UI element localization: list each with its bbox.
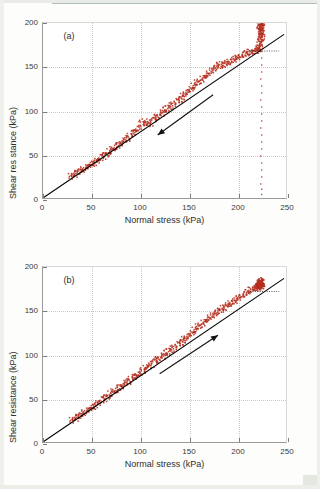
ytick-label-150: 150 bbox=[10, 306, 38, 315]
xtick-0 bbox=[43, 194, 44, 198]
ytick-100 bbox=[43, 356, 47, 357]
xtick-100 bbox=[141, 194, 142, 198]
series-shear-peak-cluster bbox=[253, 277, 265, 292]
xtick-label-250: 250 bbox=[280, 203, 293, 212]
xtick-200 bbox=[239, 194, 240, 198]
xtick-label-50: 50 bbox=[87, 447, 96, 456]
xtick-250 bbox=[288, 194, 289, 198]
xtick-250 bbox=[288, 438, 289, 442]
xtick-0 bbox=[43, 438, 44, 442]
xtick-label-150: 150 bbox=[182, 447, 195, 456]
xtick-label-0: 0 bbox=[40, 203, 44, 212]
plot-inner-b bbox=[43, 267, 286, 442]
panel-tag-b: (b) bbox=[64, 275, 75, 285]
direction-arrow-head-b bbox=[211, 335, 218, 341]
plot-canvas-b bbox=[43, 267, 286, 442]
xtick-label-250: 250 bbox=[280, 447, 293, 456]
direction-arrow-shaft-b bbox=[160, 335, 218, 374]
y-axis-title-b: Shear resistance (kPa) bbox=[8, 351, 18, 443]
ytick-150 bbox=[43, 67, 47, 68]
ytick-150 bbox=[43, 311, 47, 312]
ytick-200 bbox=[43, 267, 47, 268]
direction-arrow-head-a bbox=[158, 129, 165, 135]
series-shear-unload-trace bbox=[68, 44, 263, 179]
chart-panel-b: 37°050100150200250050100150200Normal str… bbox=[0, 250, 320, 488]
fit-line-b bbox=[43, 278, 284, 442]
xtick-label-150: 150 bbox=[182, 203, 195, 212]
xtick-label-100: 100 bbox=[133, 447, 146, 456]
xtick-50 bbox=[92, 194, 93, 198]
plot-area-a bbox=[42, 22, 287, 199]
plot-canvas-a bbox=[43, 23, 286, 198]
series-shear-vertical-dropoff bbox=[260, 57, 262, 195]
xtick-label-50: 50 bbox=[87, 203, 96, 212]
ytick-label-150: 150 bbox=[10, 62, 38, 71]
ytick-label-200: 200 bbox=[10, 18, 38, 27]
ytick-200 bbox=[43, 23, 47, 24]
xtick-100 bbox=[141, 438, 142, 442]
ytick-label-200: 200 bbox=[10, 262, 38, 271]
x-axis-title-b: Normal stress (kPa) bbox=[42, 459, 287, 469]
ytick-0 bbox=[43, 444, 47, 445]
series-shear-load-trace bbox=[69, 281, 263, 423]
xtick-label-100: 100 bbox=[133, 203, 146, 212]
plot-area-b bbox=[42, 266, 287, 443]
xtick-150 bbox=[190, 194, 191, 198]
y-axis-title-a: Shear res stance (kPa) bbox=[8, 107, 18, 199]
scan-edge-top-rule bbox=[52, 3, 320, 4]
xtick-50 bbox=[92, 438, 93, 442]
ytick-0 bbox=[43, 200, 47, 201]
xtick-label-200: 200 bbox=[231, 447, 244, 456]
x-axis-title-a: Normal stress (kPa) bbox=[42, 215, 287, 225]
panel-tag-a: (a) bbox=[64, 31, 75, 41]
plot-inner-a bbox=[43, 23, 286, 198]
fit-line-a bbox=[43, 34, 284, 198]
figure-page: 37°050100150200250050100150200Normal str… bbox=[0, 0, 320, 489]
xtick-200 bbox=[239, 438, 240, 442]
ytick-50 bbox=[43, 400, 47, 401]
ytick-50 bbox=[43, 156, 47, 157]
xtick-label-0: 0 bbox=[40, 447, 44, 456]
xtick-150 bbox=[190, 438, 191, 442]
chart-panel-a: 37°050100150200250050100150200Normal str… bbox=[0, 6, 320, 244]
xtick-label-200: 200 bbox=[231, 203, 244, 212]
ytick-100 bbox=[43, 112, 47, 113]
